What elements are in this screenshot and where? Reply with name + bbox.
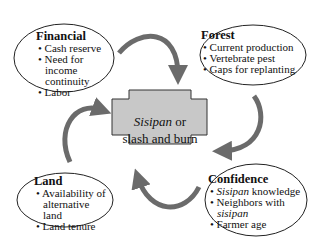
land-node: Land • Availability of alternative land … (34, 175, 106, 232)
forest-node: Forest • Current production • Vertebrate… (201, 29, 301, 75)
forest-item: • Gaps for replanting (201, 64, 301, 75)
land-item: • Land tenure (34, 221, 106, 232)
financial-item: • Need for income continuity (36, 54, 116, 87)
center-label: Sisipan or slash and burn (120, 113, 200, 147)
arrow-forest-to-center (222, 96, 261, 151)
financial-item: • Labor (36, 87, 116, 98)
confidence-node: Confidence • Sisipan knowledge • Neighbo… (208, 173, 304, 230)
arrow-confidence-to-center (138, 178, 199, 207)
arrow-financial-to-center (119, 36, 178, 75)
arrow-land-to-center (65, 108, 102, 162)
land-item: • Availability of alternative land (34, 188, 106, 221)
center-label-line2: slash and burn (120, 130, 200, 147)
center-label-italic: Sisipan (134, 114, 172, 129)
confidence-item: • Neighbors withsisipan (208, 197, 304, 219)
confidence-item: • Farmer age (208, 219, 304, 230)
financial-node: Financial • Cash reserve • Need for inco… (36, 30, 116, 98)
